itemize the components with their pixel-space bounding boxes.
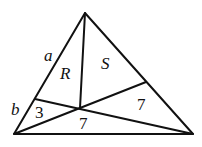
triangle-diagram: a b R S 3 7 7 xyxy=(0,0,202,147)
label-b: b xyxy=(11,100,20,119)
label-a: a xyxy=(44,46,53,65)
region-area-7-bottom: 7 xyxy=(79,114,88,133)
region-label-S: S xyxy=(101,54,110,73)
region-area-3: 3 xyxy=(35,103,44,122)
region-area-7-right: 7 xyxy=(137,95,146,114)
region-label-R: R xyxy=(59,64,71,83)
cevian-apex-to-interior xyxy=(80,13,85,108)
